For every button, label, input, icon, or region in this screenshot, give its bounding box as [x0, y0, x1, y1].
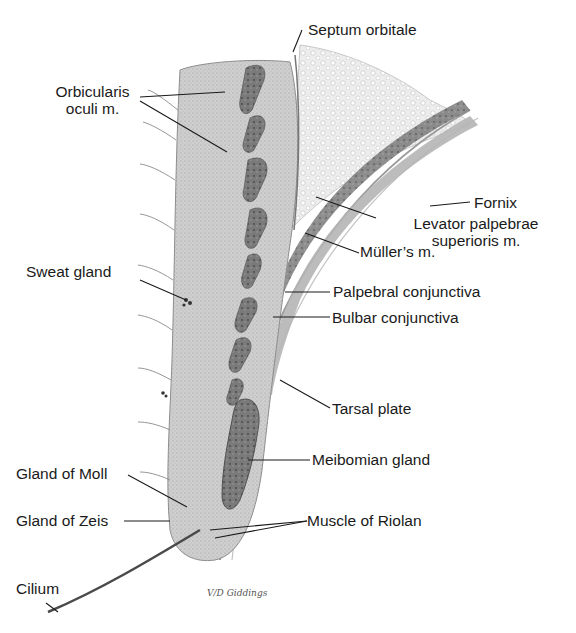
label-gland-of-moll: Gland of Moll — [16, 465, 107, 482]
signature-prefix: V/D — [207, 588, 224, 598]
label-tarsal-plate: Tarsal plate — [332, 400, 411, 417]
label-gland-of-zeis: Gland of Zeis — [16, 512, 108, 529]
label-orbicularis-oculi: Orbicularis oculi m. — [45, 83, 140, 117]
cilium — [48, 530, 200, 612]
label-orbicularis-line2: oculi m. — [45, 100, 140, 117]
label-septum-orbitale: Septum orbitale — [308, 21, 417, 38]
label-levator-line1: Levator palpebrae — [376, 215, 576, 232]
label-muscle-of-riolan: Muscle of Riolan — [307, 512, 422, 529]
label-bulbar-conjunctiva: Bulbar conjunctiva — [332, 309, 459, 326]
label-cilium: Cilium — [16, 580, 59, 597]
label-muller: Müller’s m. — [360, 243, 435, 260]
label-fornix: Fornix — [474, 194, 517, 211]
artist-signature: V/D Giddings — [207, 588, 267, 598]
label-sweat-gland: Sweat gland — [26, 263, 111, 280]
label-orbicularis-line1: Orbicularis — [45, 83, 140, 100]
label-palpebral-conjunctiva: Palpebral conjunctiva — [333, 283, 480, 300]
signature-name: Giddings — [227, 588, 268, 598]
label-meibomian-gland: Meibomian gland — [312, 451, 430, 468]
